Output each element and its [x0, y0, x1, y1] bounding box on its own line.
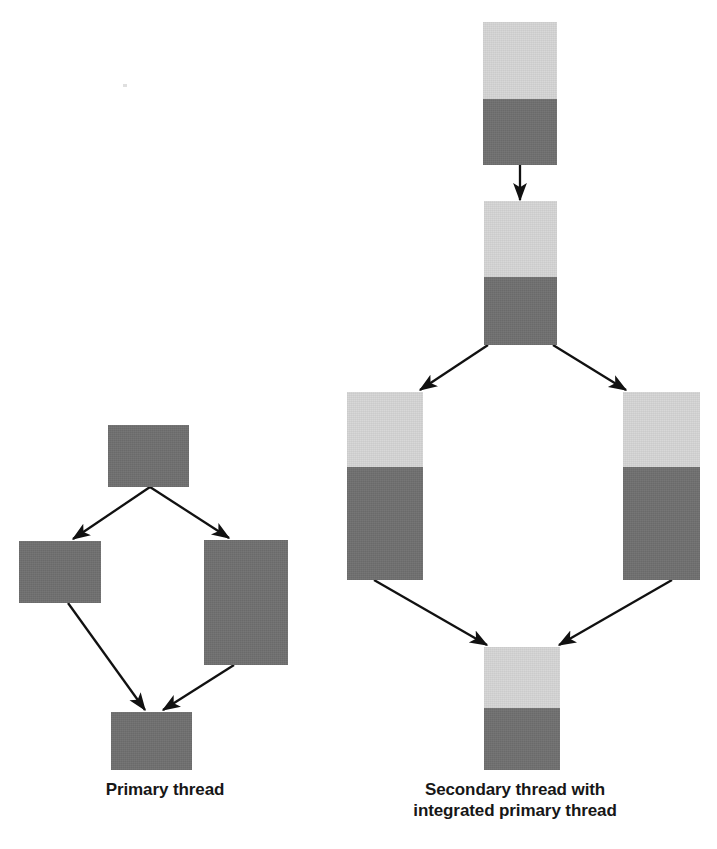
caption-secondary-line-2: integrated primary thread — [358, 800, 672, 821]
edge-secondary-right-to-bottom — [559, 580, 672, 645]
primary-node-bottom — [111, 712, 192, 770]
secondary-node-right-branch — [623, 392, 700, 580]
node-segment-dark — [483, 99, 557, 165]
edge-secondary-second-to-left — [420, 345, 488, 390]
node-segment-light — [347, 392, 423, 467]
caption-secondary-thread: Secondary thread with integrated primary… — [358, 779, 672, 821]
secondary-node-left-branch — [347, 392, 423, 580]
node-segment-dark — [204, 540, 288, 665]
node-segment-dark — [19, 541, 101, 603]
edge-primary-top-to-left — [73, 487, 150, 539]
edge-primary-right-to-bottom — [163, 665, 234, 710]
node-segment-light — [484, 647, 560, 708]
node-segment-light — [483, 22, 557, 99]
primary-node-left-branch — [19, 541, 101, 603]
node-segment-dark — [484, 708, 560, 770]
secondary-node-second — [484, 201, 557, 345]
node-segment-light — [484, 201, 557, 277]
edge-primary-top-to-right — [150, 487, 229, 538]
node-segment-dark — [484, 277, 557, 345]
edge-primary-left-to-bottom — [68, 603, 145, 710]
node-segment-dark — [108, 425, 189, 487]
node-segment-light — [623, 392, 700, 467]
secondary-node-bottom — [484, 647, 560, 770]
node-segment-dark — [623, 467, 700, 580]
primary-node-right-branch — [204, 540, 288, 665]
secondary-node-top — [483, 22, 557, 165]
node-segment-dark — [111, 712, 192, 770]
caption-secondary-line-1: Secondary thread with — [358, 779, 672, 800]
edge-secondary-left-to-bottom — [374, 580, 487, 645]
caption-primary-line-1: Primary thread — [45, 779, 285, 800]
edge-secondary-second-to-right — [553, 345, 626, 390]
node-segment-dark — [347, 467, 423, 580]
caption-primary-thread: Primary thread — [45, 779, 285, 800]
thread-flow-figure: Primary thread Secondary thread with int… — [0, 0, 717, 849]
primary-node-top — [108, 425, 189, 487]
